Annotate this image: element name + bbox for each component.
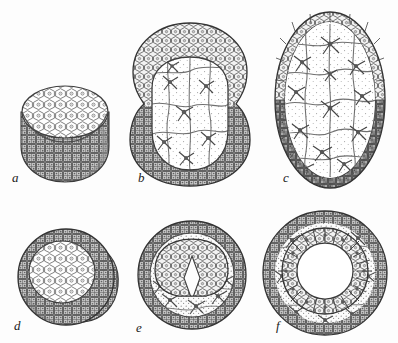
figure-b-gastrula-bilobed: b [125, 18, 257, 192]
figure-c-label: c [283, 170, 289, 185]
plate-canvas: a [0, 0, 398, 343]
figure-b-label: b [138, 170, 145, 185]
figure-a-label: a [12, 170, 19, 185]
illustration-plate: a [0, 0, 398, 343]
figure-d-label: d [14, 318, 21, 333]
figure-f-lumen [297, 243, 353, 299]
figure-e-label: e [136, 320, 142, 335]
